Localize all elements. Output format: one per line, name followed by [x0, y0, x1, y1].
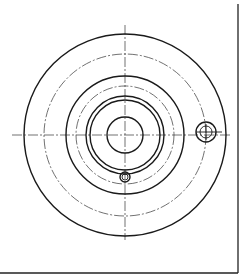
technical-drawing: [0, 0, 250, 276]
